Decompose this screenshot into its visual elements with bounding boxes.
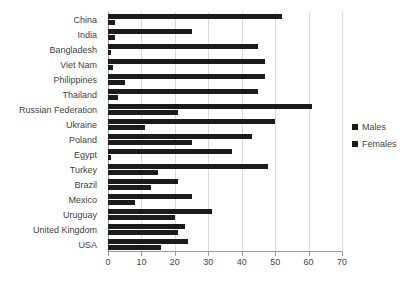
category-label: Uruguay bbox=[0, 207, 102, 222]
gridline bbox=[342, 12, 343, 252]
bar-chart: ChinaIndiaBangladeshViet NamPhilippinesT… bbox=[0, 0, 413, 290]
bar-row bbox=[108, 57, 342, 72]
category-label: China bbox=[0, 12, 102, 27]
legend-label: Males bbox=[362, 122, 386, 132]
category-axis-labels: ChinaIndiaBangladeshViet NamPhilippinesT… bbox=[0, 12, 102, 252]
bar-males bbox=[108, 209, 212, 214]
axis-tick bbox=[175, 252, 176, 256]
plot-area bbox=[108, 12, 342, 252]
category-label: Turkey bbox=[0, 162, 102, 177]
legend-item: Females bbox=[352, 139, 412, 149]
bar-row bbox=[108, 12, 342, 27]
axis-tick-label: 50 bbox=[270, 257, 280, 267]
category-label: India bbox=[0, 27, 102, 42]
chart-legend: MalesFemales bbox=[352, 122, 412, 156]
bar-males bbox=[108, 149, 232, 154]
category-label: United Kingdom bbox=[0, 222, 102, 237]
bar-females bbox=[108, 95, 118, 100]
category-label: USA bbox=[0, 237, 102, 252]
bar-row bbox=[108, 237, 342, 252]
category-label: Viet Nam bbox=[0, 57, 102, 72]
legend-label: Females bbox=[362, 139, 397, 149]
bar-row bbox=[108, 177, 342, 192]
bar-females bbox=[108, 80, 125, 85]
bar-females bbox=[108, 185, 151, 190]
value-axis: 010203040506070 bbox=[108, 252, 342, 274]
bar-females bbox=[108, 230, 178, 235]
category-label: Russian Federation bbox=[0, 102, 102, 117]
axis-tick-label: 10 bbox=[136, 257, 146, 267]
bar-females bbox=[108, 215, 175, 220]
category-label: Philippines bbox=[0, 72, 102, 87]
bar-females bbox=[108, 140, 192, 145]
bar-females bbox=[108, 155, 111, 160]
axis-tick-label: 20 bbox=[170, 257, 180, 267]
axis-tick bbox=[208, 252, 209, 256]
bar-males bbox=[108, 59, 265, 64]
axis-tick-label: 60 bbox=[304, 257, 314, 267]
bar-males bbox=[108, 224, 185, 229]
bar-females bbox=[108, 170, 158, 175]
bar-females bbox=[108, 35, 115, 40]
bar-females bbox=[108, 20, 115, 25]
bar-row bbox=[108, 222, 342, 237]
bar-row bbox=[108, 27, 342, 42]
bar-row bbox=[108, 117, 342, 132]
bar-females bbox=[108, 50, 111, 55]
bar-males bbox=[108, 104, 312, 109]
legend-swatch-icon bbox=[352, 124, 358, 130]
bar-row bbox=[108, 192, 342, 207]
bar-males bbox=[108, 239, 188, 244]
axis-tick-label: 40 bbox=[237, 257, 247, 267]
axis-tick-label: 70 bbox=[337, 257, 347, 267]
legend-item: Males bbox=[352, 122, 412, 132]
bar-females bbox=[108, 200, 135, 205]
bar-row bbox=[108, 132, 342, 147]
legend-swatch-icon bbox=[352, 141, 358, 147]
bar-males bbox=[108, 164, 268, 169]
bar-females bbox=[108, 125, 145, 130]
bar-row bbox=[108, 102, 342, 117]
bar-row bbox=[108, 42, 342, 57]
axis-tick bbox=[342, 252, 343, 256]
bar-males bbox=[108, 44, 258, 49]
bar-row bbox=[108, 87, 342, 102]
category-label: Bangladesh bbox=[0, 42, 102, 57]
bar-males bbox=[108, 179, 178, 184]
category-label: Brazil bbox=[0, 177, 102, 192]
category-label: Ukraine bbox=[0, 117, 102, 132]
bar-males bbox=[108, 194, 192, 199]
category-label: Poland bbox=[0, 132, 102, 147]
category-label: Mexico bbox=[0, 192, 102, 207]
bar-males bbox=[108, 29, 192, 34]
axis-tick bbox=[275, 252, 276, 256]
bar-row bbox=[108, 72, 342, 87]
category-label: Thailand bbox=[0, 87, 102, 102]
axis-tick-label: 30 bbox=[203, 257, 213, 267]
axis-tick bbox=[309, 252, 310, 256]
bar-females bbox=[108, 245, 161, 250]
bar-males bbox=[108, 134, 252, 139]
bar-rows bbox=[108, 12, 342, 252]
bar-males bbox=[108, 119, 275, 124]
bar-row bbox=[108, 162, 342, 177]
category-label: Egypt bbox=[0, 147, 102, 162]
axis-tick bbox=[141, 252, 142, 256]
bar-males bbox=[108, 14, 282, 19]
bar-females bbox=[108, 65, 113, 70]
bar-row bbox=[108, 207, 342, 222]
bar-females bbox=[108, 110, 178, 115]
axis-tick bbox=[108, 252, 109, 256]
bar-row bbox=[108, 147, 342, 162]
bar-males bbox=[108, 89, 258, 94]
axis-tick bbox=[242, 252, 243, 256]
bar-males bbox=[108, 74, 265, 79]
axis-tick-label: 0 bbox=[105, 257, 110, 267]
